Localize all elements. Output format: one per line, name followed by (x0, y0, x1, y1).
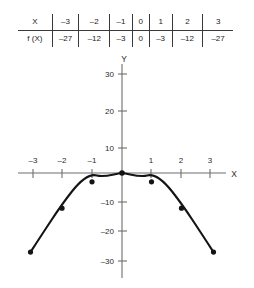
table-row-x: X –3 –2 –1 0 1 2 3 (18, 14, 233, 31)
table-cell-fx-0: –27 (52, 31, 79, 48)
y-tick-label-30: 30 (105, 70, 114, 79)
x-tick-label-3: 3 (208, 156, 213, 165)
data-point-0 (119, 170, 125, 176)
table-cell-x-4: 1 (149, 14, 172, 31)
table-cell-fx-4: –3 (149, 31, 172, 48)
y-axis-label: Y (121, 54, 127, 64)
table-row-label-x: X (18, 14, 52, 31)
table-cell-fx-1: –12 (79, 31, 110, 48)
x-tick-label-2: 2 (179, 156, 184, 165)
table-cell-fx-2: –3 (110, 31, 133, 48)
x-tick-label-1: 1 (149, 156, 154, 165)
x-tick-label--2: –2 (58, 156, 67, 165)
table-cell-fx-6: –27 (203, 31, 233, 48)
table-cell-fx-5: –12 (172, 31, 203, 48)
table-row-label-fx: f (X) (18, 31, 52, 48)
data-point-1 (149, 179, 154, 184)
table-cell-fx-3: 0 (132, 31, 149, 48)
parabola-graph: –3 –2 –1 1 2 3 30 20 10 –10 –20 –30 X Y (0, 50, 254, 288)
data-point-3 (211, 250, 216, 255)
y-tick-label-10: 10 (105, 144, 114, 153)
table-cell-x-1: –2 (79, 14, 110, 31)
y-tick-label--20: –20 (101, 227, 115, 236)
table-row-fx: f (X) –27 –12 –3 0 –3 –12 –27 (18, 31, 233, 48)
x-tick-label--3: –3 (29, 156, 38, 165)
table-cell-x-2: –1 (110, 14, 133, 31)
figure-root: X –3 –2 –1 0 1 2 3 f (X) –27 –12 –3 0 –3… (0, 0, 254, 288)
data-point--2 (59, 206, 64, 211)
data-point--3 (28, 250, 33, 255)
x-tick-label--1: –1 (88, 156, 97, 165)
data-point-2 (179, 206, 184, 211)
table-cell-x-0: –3 (52, 14, 79, 31)
y-tick-label-20: 20 (105, 107, 114, 116)
table-cell-x-6: 3 (203, 14, 233, 31)
x-axis-label: X (231, 169, 237, 179)
table-cell-x-3: 0 (132, 14, 149, 31)
value-table: X –3 –2 –1 0 1 2 3 f (X) –27 –12 –3 0 –3… (18, 14, 233, 47)
data-point--1 (89, 179, 94, 184)
y-tick-label--30: –30 (101, 257, 115, 266)
y-tick-label--10: –10 (101, 198, 115, 207)
table-cell-x-5: 2 (172, 14, 203, 31)
